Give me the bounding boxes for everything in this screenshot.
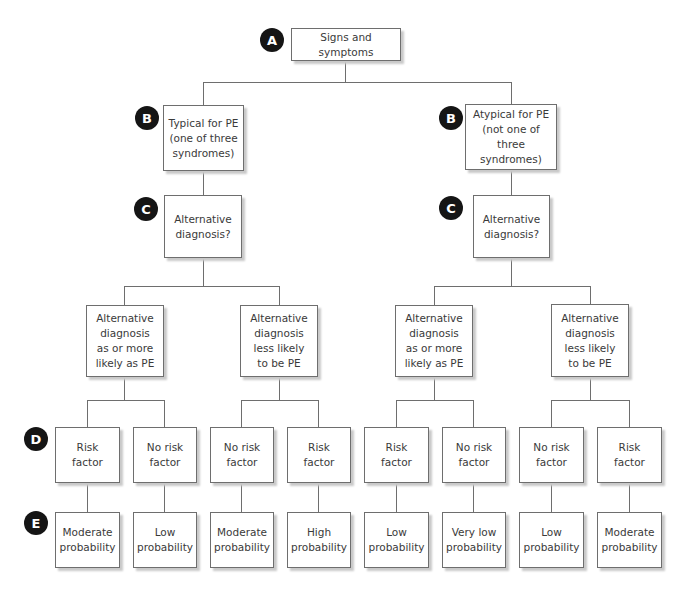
node-label: No risk factor: [224, 440, 260, 470]
node-label: Alternative diagnosis as or more likely …: [405, 311, 464, 371]
node-label: Atypical for PE (not one of three syndro…: [468, 107, 554, 167]
connector: [434, 377, 435, 400]
connector: [629, 400, 630, 427]
node-label: Moderate probability: [601, 525, 657, 555]
node-label: Low probability: [368, 525, 424, 555]
node-low-probability: Low probability: [519, 512, 584, 568]
connector: [551, 483, 552, 512]
connector: [124, 286, 125, 305]
connector: [241, 400, 242, 427]
connector: [87, 400, 165, 401]
connector: [396, 483, 397, 512]
node-very-low-probability: Very low probability: [442, 512, 506, 568]
node-moderate-probability: Moderate probability: [210, 512, 274, 568]
connector: [473, 400, 474, 427]
badge-b-right: B: [439, 106, 463, 130]
node-label: Typical for PE (one of three syndromes): [169, 116, 239, 161]
connector: [164, 400, 165, 427]
node-risk-factor: Risk factor: [287, 427, 351, 483]
node-alternative-diagnosis-left: Alternative diagnosis?: [164, 195, 242, 258]
node-risk-factor: Risk factor: [364, 427, 429, 483]
node-no-risk-factor: No risk factor: [133, 427, 197, 483]
node-label: No risk factor: [147, 440, 183, 470]
node-moderate-probability: Moderate probability: [55, 512, 120, 568]
connector: [279, 377, 280, 400]
connector: [87, 483, 88, 512]
node-label: Low probability: [523, 525, 579, 555]
node-moderate-probability: Moderate probability: [597, 512, 662, 568]
connector: [241, 483, 242, 512]
node-signs-and-symptoms: Signs and symptoms: [291, 28, 401, 61]
connector: [203, 170, 204, 195]
node-label: Risk factor: [72, 440, 103, 470]
node-label: Low probability: [137, 525, 193, 555]
node-high-probability: High probability: [287, 512, 351, 568]
node-label: Alternative diagnosis less likely to be …: [250, 311, 308, 371]
node-typical-for-pe: Typical for PE (one of three syndromes): [163, 105, 244, 171]
node-label: Risk factor: [381, 440, 412, 470]
connector: [279, 286, 280, 305]
connector: [318, 400, 319, 427]
connector: [203, 82, 204, 105]
node-no-risk-factor: No risk factor: [519, 427, 584, 483]
node-alt-less-likely-right: Alternative diagnosis less likely to be …: [551, 304, 629, 377]
connector: [434, 286, 591, 287]
node-alt-as-likely-right: Alternative diagnosis as or more likely …: [395, 305, 473, 377]
node-label: Alternative diagnosis as or more likely …: [96, 311, 155, 371]
node-label: No risk factor: [533, 440, 569, 470]
badge-e: E: [24, 511, 48, 535]
connector: [590, 377, 591, 400]
connector: [511, 258, 512, 286]
connector: [590, 286, 591, 305]
node-label: High probability: [291, 525, 347, 555]
node-label: Very low probability: [446, 525, 502, 555]
node-label: Signs and symptoms: [294, 30, 398, 60]
connector: [551, 400, 630, 401]
node-no-risk-factor: No risk factor: [442, 427, 506, 483]
connector: [396, 400, 397, 427]
node-low-probability: Low probability: [364, 512, 429, 568]
node-low-probability: Low probability: [133, 512, 197, 568]
connector: [87, 400, 88, 427]
node-label: Moderate probability: [59, 525, 115, 555]
connector: [203, 82, 512, 83]
connector: [511, 82, 512, 104]
connector: [318, 483, 319, 512]
node-label: Moderate probability: [214, 525, 270, 555]
connector: [511, 170, 512, 195]
badge-c-left: C: [134, 197, 158, 221]
node-risk-factor: Risk factor: [597, 427, 662, 483]
node-label: Alternative diagnosis?: [483, 212, 541, 242]
badge-c-right: C: [439, 196, 463, 220]
node-label: Risk factor: [614, 440, 645, 470]
connector: [629, 483, 630, 512]
node-no-risk-factor: No risk factor: [210, 427, 274, 483]
node-alt-less-likely-left: Alternative diagnosis less likely to be …: [240, 305, 318, 377]
connector: [434, 286, 435, 305]
badge-d: D: [24, 427, 48, 451]
node-label: Alternative diagnosis less likely to be …: [561, 311, 619, 371]
node-label: Alternative diagnosis?: [174, 212, 232, 242]
connector: [241, 400, 319, 401]
connector: [551, 400, 552, 427]
node-label: Risk factor: [304, 440, 335, 470]
connector: [124, 286, 280, 287]
node-alt-as-likely-left: Alternative diagnosis as or more likely …: [86, 305, 164, 377]
badge-b-left: B: [135, 106, 159, 130]
connector: [473, 483, 474, 512]
node-atypical-for-pe: Atypical for PE (not one of three syndro…: [465, 104, 557, 170]
node-label: No risk factor: [456, 440, 492, 470]
connector: [345, 61, 346, 82]
connector: [164, 483, 165, 512]
connector: [124, 377, 125, 400]
node-risk-factor: Risk factor: [55, 427, 120, 483]
connector: [396, 400, 474, 401]
badge-a: A: [260, 28, 284, 52]
node-alternative-diagnosis-right: Alternative diagnosis?: [473, 195, 550, 258]
connector: [203, 258, 204, 286]
